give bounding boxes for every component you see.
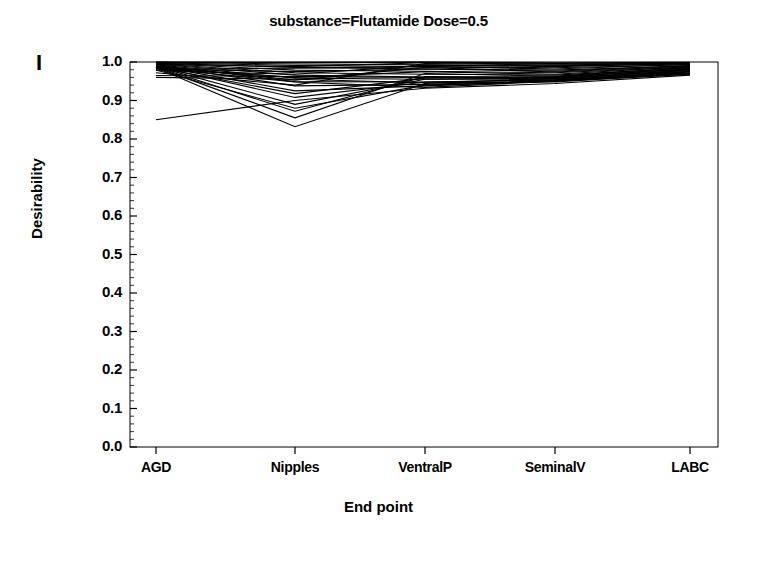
y-tick-label: 0.5 — [76, 245, 122, 262]
y-tick-label: 0.7 — [76, 168, 122, 185]
y-tick-label: 0.6 — [76, 206, 122, 223]
y-tick-label: 0.3 — [76, 322, 122, 339]
chart-container: I substance=Flutamide Dose=0.5 Desirabil… — [0, 0, 757, 561]
axis-ticks — [130, 62, 690, 454]
x-tick-label: Nipples — [225, 459, 365, 475]
y-tick-label: 0.4 — [76, 283, 122, 300]
x-tick-label: VentralP — [355, 459, 495, 475]
y-tick-label: 0.2 — [76, 360, 122, 377]
y-tick-label: 0.8 — [76, 129, 122, 146]
y-tick-label: 0.9 — [76, 91, 122, 108]
y-tick-label: 0.1 — [76, 399, 122, 416]
y-tick-label: 0.0 — [76, 437, 122, 454]
y-tick-label: 1.0 — [76, 52, 122, 69]
plot-area — [0, 0, 757, 561]
x-tick-label: AGD — [86, 459, 226, 475]
data-lines — [156, 62, 690, 127]
x-tick-label: LABC — [620, 459, 757, 475]
x-tick-label: SeminalV — [485, 459, 625, 475]
plot-frame — [130, 62, 718, 447]
